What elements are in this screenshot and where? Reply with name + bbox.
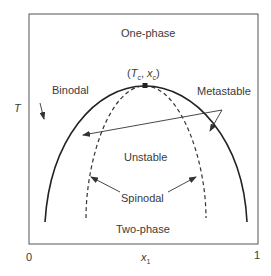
- x-axis-sub: 1: [147, 258, 151, 265]
- critical-point-label: (Tc, xc): [127, 68, 160, 81]
- binodal-arrow: [40, 103, 44, 119]
- critical-point-marker: [143, 83, 148, 88]
- binodal-label: Binodal: [52, 85, 89, 96]
- plot-frame: [29, 14, 258, 244]
- x-axis-max: 1: [254, 250, 260, 261]
- critical-T-sub: c: [137, 74, 141, 81]
- critical-x-sub: c: [153, 74, 157, 81]
- metastable-label: Metastable: [197, 86, 251, 97]
- spinodal-arrow-right: [168, 177, 196, 192]
- spinodal-label: Spinodal: [121, 193, 164, 204]
- region-label-unstable: Unstable: [124, 152, 167, 163]
- x-axis-label: x1: [141, 252, 150, 265]
- spinodal-arrow-left: [91, 177, 120, 192]
- y-axis-label: T: [14, 103, 21, 114]
- region-label-two-phase: Two-phase: [116, 224, 170, 235]
- region-label-one-phase: One-phase: [121, 28, 175, 39]
- x-axis-min: 0: [26, 252, 32, 263]
- metastable-arrow-left: [83, 110, 222, 135]
